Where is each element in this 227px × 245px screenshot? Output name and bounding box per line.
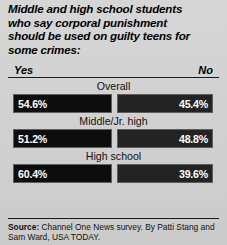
row-label-overall: Overall [8,79,219,94]
row-label-high-school: High school [8,149,219,164]
title-line-3: should be used on guilty teens for [8,29,219,43]
bar-value-no-overall: 45.4% [179,98,208,110]
title-line-1: Middle and high school students [8,2,219,16]
chart-row-middle-jr-high: Middle/Jr. high 51.2% 48.8% [8,114,219,148]
legend-label-yes: Yes [14,64,33,76]
bar-yes-high-school: 60.4% [13,164,112,183]
bar-value-no-middle-jr-high: 48.8% [179,133,208,145]
bar-yes-middle-jr-high: 51.2% [13,129,112,148]
footer-divider [8,218,219,219]
chart-rows: Overall 54.6% 45.4% Middle/Jr. high 51.2… [8,79,219,183]
bar-value-yes-overall: 54.6% [18,98,47,110]
title-line-2: who say corporal punishment [8,16,219,30]
bar-yes-overall: 54.6% [13,94,112,113]
chart-row-overall: Overall 54.6% 45.4% [8,79,219,113]
chart-row-high-school: High school 60.4% 39.6% [8,149,219,183]
row-label-middle-jr-high: Middle/Jr. high [8,114,219,129]
infographic-container: Middle and high school students who say … [0,0,227,245]
source-label: Source: [8,222,39,232]
bar-pair-middle-jr-high: 51.2% 48.8% [8,129,219,148]
bar-pair-high-school: 60.4% 39.6% [8,164,219,183]
bar-value-yes-high-school: 60.4% [18,168,47,180]
bar-pair-overall: 54.6% 45.4% [8,94,219,113]
page-title: Middle and high school students who say … [8,0,219,56]
bar-no-middle-jr-high: 48.8% [117,129,213,148]
source-text: Channel One News survey. By Patti Stang … [8,222,215,242]
source-note: Source: Channel One News survey. By Patt… [8,222,219,242]
title-line-4: some crimes: [8,43,219,57]
legend: Yes No [8,62,219,78]
legend-label-no: No [198,64,213,76]
bar-value-yes-middle-jr-high: 51.2% [18,133,47,145]
footer: Source: Channel One News survey. By Patt… [8,218,219,242]
bar-no-high-school: 39.6% [117,164,213,183]
bar-value-no-high-school: 39.6% [179,168,208,180]
bar-no-overall: 45.4% [117,94,213,113]
